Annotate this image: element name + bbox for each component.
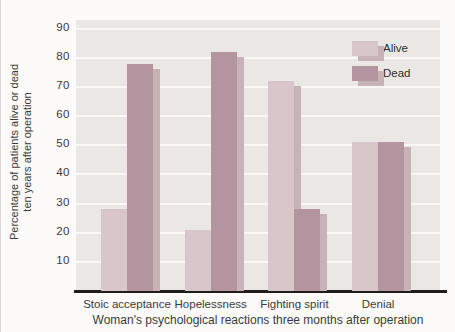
y-tick-40: 40: [38, 166, 70, 178]
legend-swatch-alive: [352, 41, 378, 56]
y-tick-70: 70: [38, 79, 70, 91]
legend-swatch-dead: [352, 66, 378, 81]
legend-label-alive: Alive: [383, 42, 408, 54]
bar-alive-1: [185, 230, 211, 291]
figure-survival-bar-chart: Percentage of patients alive or dead ten…: [0, 0, 455, 332]
y-tick-80: 80: [38, 50, 70, 62]
legend-label-dead: Dead: [383, 67, 411, 79]
bar-dead-0: [127, 64, 153, 291]
y-tick-20: 20: [38, 225, 70, 237]
bar-dead-1: [211, 52, 237, 291]
y-axis-title-line1: Percentage of patients alive or dead: [8, 64, 21, 240]
scan-edge-line: [0, 0, 1, 332]
gridline-80: [76, 57, 440, 59]
bar-alive-2: [268, 81, 294, 291]
bar-dead-2: [294, 209, 320, 291]
bar-alive-3: [352, 142, 378, 291]
y-tick-30: 30: [38, 196, 70, 208]
bar-alive-0: [101, 209, 127, 291]
gridline-90: [76, 28, 440, 30]
plot-area: [76, 20, 440, 291]
y-axis-title-line2: ten years after operation: [21, 64, 34, 240]
y-tick-60: 60: [38, 108, 70, 120]
y-tick-10: 10: [38, 254, 70, 266]
y-tick-90: 90: [38, 21, 70, 33]
y-axis-title: Percentage of patients alive or dead ten…: [8, 64, 34, 240]
bar-dead-3: [378, 142, 404, 291]
y-tick-50: 50: [38, 137, 70, 149]
x-label-3: Denial: [313, 298, 443, 310]
x-axis-title: Woman's psychological reactions three mo…: [76, 313, 440, 327]
